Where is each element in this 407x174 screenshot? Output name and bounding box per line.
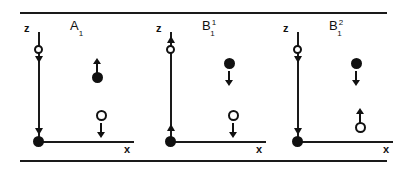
panel-title-subscript: 1 xyxy=(79,29,83,38)
spin-down-arrow-icon xyxy=(225,69,234,86)
origin-filled-circle xyxy=(292,136,303,147)
z-axis-open-circle xyxy=(34,45,43,54)
spin-down-arrow-icon xyxy=(352,69,361,86)
z-axis-open-circle xyxy=(293,45,302,54)
z-axis-label: z xyxy=(24,22,30,34)
z-axis-arrowhead-lower xyxy=(167,124,175,131)
physics-spin-diagram: A1 z x B11 xyxy=(0,0,407,174)
z-axis-arrowhead-upper xyxy=(294,56,302,63)
z-axis-arrowhead-upper xyxy=(167,36,175,43)
origin-filled-circle xyxy=(33,136,44,147)
panel-title-superscript: 2 xyxy=(339,18,343,27)
x-axis-line xyxy=(38,141,134,143)
origin-filled-circle xyxy=(165,136,176,147)
panel-title-b1-2: B21 xyxy=(329,18,347,36)
panel-b1-2: B21 z x xyxy=(277,16,404,158)
panel-title-base: A xyxy=(70,18,79,33)
panel-a1: A1 z x xyxy=(18,16,145,158)
x-axis-label: x xyxy=(124,143,130,155)
top-divider-rule xyxy=(20,12,387,14)
open-circle xyxy=(96,110,107,121)
panel-title-b1-1: B11 xyxy=(202,18,220,36)
z-axis-label: z xyxy=(156,22,162,34)
panel-title-superscript: 1 xyxy=(212,18,216,27)
filled-circle xyxy=(351,58,362,69)
panel-b1-1: B11 z x xyxy=(150,16,277,158)
panel-title-subscript: 1 xyxy=(337,29,341,38)
x-axis-label: x xyxy=(256,143,262,155)
x-axis-line xyxy=(170,141,266,143)
z-axis-arrowhead-lower xyxy=(35,128,43,135)
spin-down-arrow-icon xyxy=(97,121,106,138)
z-axis-open-circle xyxy=(166,45,175,54)
filled-circle xyxy=(224,58,235,69)
bottom-divider-rule xyxy=(20,160,387,162)
spin-down-arrow-icon xyxy=(229,121,238,138)
x-axis-label: x xyxy=(383,143,389,155)
panel-title-a1: A1 xyxy=(70,18,83,36)
panel-title-subscript: 1 xyxy=(210,29,214,38)
x-axis-line xyxy=(297,141,393,143)
z-axis-label: z xyxy=(283,22,289,34)
z-axis-arrowhead-lower xyxy=(294,128,302,135)
open-circle xyxy=(355,122,366,133)
z-axis-arrowhead-upper xyxy=(35,56,43,63)
open-circle xyxy=(228,110,239,121)
filled-circle xyxy=(92,72,103,83)
